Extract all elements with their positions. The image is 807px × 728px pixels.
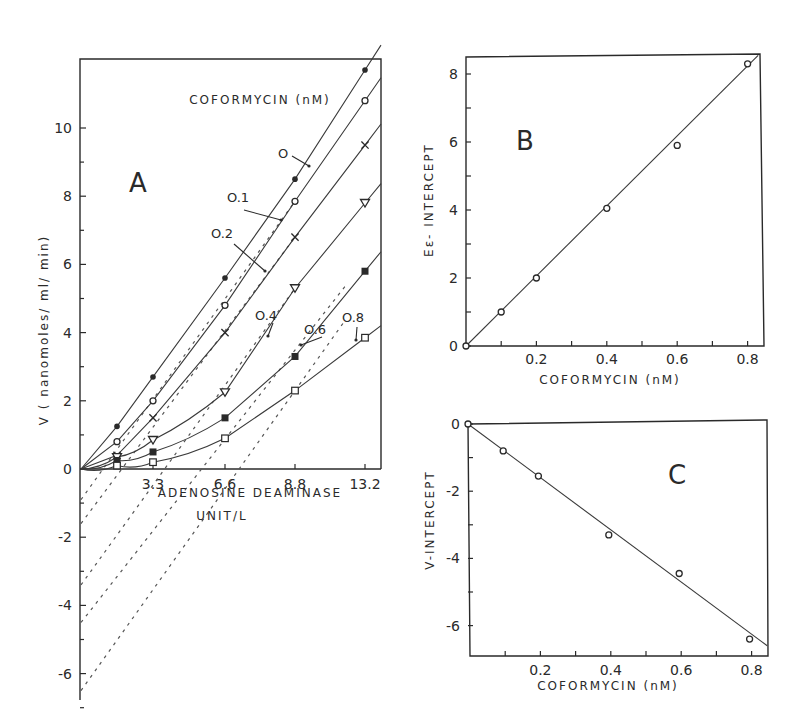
- fit-curve-0-8: [81, 326, 381, 471]
- data-point-open-circle: [500, 448, 506, 454]
- x-tick-label: 0.4: [600, 662, 622, 678]
- y-tick-label: -2: [58, 529, 72, 545]
- label-arrow: [234, 244, 265, 271]
- series-label-0-4: O.4: [255, 308, 277, 323]
- x-axis-label-unit: UNIT/L: [196, 509, 247, 523]
- data-point-filled-square: [150, 448, 157, 455]
- data-point-open-circle: [606, 532, 612, 538]
- series-label-0-8: O.8: [342, 310, 364, 325]
- data-point-cross: [149, 414, 156, 421]
- x-tick-label: 0.2: [529, 662, 551, 678]
- data-point-filled-circle: [292, 176, 298, 182]
- arrow-head-icon: [266, 334, 269, 337]
- panel-a-frame: [80, 59, 381, 700]
- arrow-head-icon: [263, 269, 266, 272]
- data-point-open-circle: [745, 61, 751, 67]
- y-tick-label: 0: [451, 416, 460, 432]
- data-point-open-square: [362, 334, 369, 341]
- data-point-open-square: [222, 435, 229, 442]
- y-tick-label: 4: [63, 325, 72, 341]
- arrow-head-icon: [279, 218, 282, 221]
- fit-curve-0-1: [81, 78, 381, 469]
- x-tick-label: 0.4: [596, 351, 618, 367]
- series-label-0-1: O.1: [227, 190, 249, 205]
- arrow-head-icon: [354, 338, 357, 341]
- data-point-open-triangle-down: [291, 285, 300, 293]
- panel-c-frame: [468, 420, 768, 656]
- data-point-filled-square: [292, 353, 299, 360]
- fit-line: [468, 424, 767, 646]
- data-point-open-circle: [465, 421, 471, 427]
- data-point-filled-square: [362, 268, 369, 275]
- data-point-filled-circle: [150, 374, 156, 380]
- x-axis-label: COFORMYCIN (nM): [537, 679, 679, 693]
- arrow-head-icon: [307, 164, 310, 167]
- x-tick-label: 0.8: [736, 351, 758, 367]
- y-tick-label: 2: [63, 393, 72, 409]
- y-axis-label: V-INTERCEPT: [423, 470, 437, 570]
- data-point-open-circle: [604, 205, 610, 211]
- data-point-cross: [361, 141, 368, 148]
- fit-curve-0: [81, 45, 381, 469]
- arrow-head-icon: [299, 343, 302, 346]
- y-tick-label: 0: [449, 338, 458, 354]
- data-point-open-circle: [222, 302, 228, 308]
- fit-line: [466, 55, 758, 346]
- y-tick-label: 2: [449, 270, 458, 286]
- y-axis-label: Eε- INTERCEPT: [422, 143, 436, 257]
- panel-letter-a: A: [129, 168, 147, 198]
- data-point-open-circle: [498, 309, 504, 315]
- data-point-open-square: [150, 459, 157, 466]
- y-tick-label: 10: [54, 120, 72, 136]
- panel-a: -6-4-202468103.36.68.813.2COFORMYCIN (nM…: [37, 45, 381, 708]
- label-arrow: [244, 210, 281, 220]
- data-point-filled-circle: [222, 275, 228, 281]
- x-tick-label: 0.8: [740, 662, 762, 678]
- x-tick-label: 0.6: [670, 662, 692, 678]
- y-tick-label: -4: [58, 597, 72, 613]
- y-axis-label: V ( nanomoles/ ml/ min): [37, 235, 51, 425]
- data-point-cross: [291, 234, 298, 241]
- x-axis-label: ADENOSINE DEAMINASE: [158, 486, 342, 500]
- y-tick-label: 0: [63, 461, 72, 477]
- data-point-filled-circle: [362, 67, 368, 73]
- series-label-0-2: O.2: [211, 226, 233, 241]
- y-tick-label: 8: [63, 188, 72, 204]
- panel-letter-c: C: [668, 460, 686, 490]
- data-point-open-circle: [535, 473, 541, 479]
- data-point-open-circle: [463, 343, 469, 349]
- legend-title: COFORMYCIN (nM): [189, 93, 331, 107]
- label-arrow: [356, 327, 357, 340]
- fit-curve-0-6: [81, 252, 381, 470]
- x-axis-label: COFORMYCIN (nM): [539, 373, 681, 387]
- data-point-open-circle: [674, 142, 680, 148]
- data-point-open-circle: [292, 198, 298, 204]
- data-point-open-circle: [533, 275, 539, 281]
- y-tick-label: 8: [449, 66, 458, 82]
- x-tick-label: 13.2: [349, 476, 380, 492]
- panel-letter-b: B: [516, 126, 534, 156]
- y-tick-label: -6: [446, 618, 460, 634]
- x-tick-label: 0.2: [525, 351, 547, 367]
- series-label-0-6: O.6: [304, 322, 326, 337]
- data-point-open-circle: [676, 571, 682, 577]
- series-label-0: O: [278, 146, 288, 161]
- data-point-open-square: [114, 462, 121, 469]
- data-point-open-circle: [747, 636, 753, 642]
- data-point-open-circle: [150, 398, 156, 404]
- panel-c: 0-2-4-60.20.40.60.8CCOFORMYCIN (nM)V-INT…: [423, 416, 768, 693]
- data-point-open-triangle-down: [361, 200, 370, 208]
- y-tick-label: 6: [63, 256, 72, 272]
- figure: -6-4-202468103.36.68.813.2COFORMYCIN (nM…: [0, 0, 807, 728]
- y-tick-label: 6: [449, 134, 458, 150]
- data-point-open-circle: [114, 439, 120, 445]
- y-tick-label: -6: [58, 666, 72, 682]
- data-point-filled-circle: [114, 424, 120, 430]
- y-tick-label: -2: [446, 483, 460, 499]
- y-tick-label: 4: [449, 202, 458, 218]
- data-point-open-square: [292, 387, 299, 394]
- data-point-filled-square: [222, 414, 229, 421]
- panel-b: 024680.20.40.60.8BCOFORMYCIN (nM)Eε- INT…: [422, 54, 764, 387]
- x-tick-label: 0.6: [666, 351, 688, 367]
- extrapolation-line: [81, 321, 345, 691]
